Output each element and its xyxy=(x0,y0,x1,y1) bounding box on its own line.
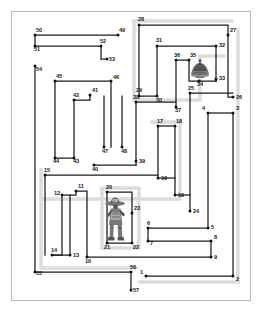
node-dot-9 xyxy=(210,256,213,259)
node-label-27: 27 xyxy=(230,27,236,33)
node-label-32: 32 xyxy=(219,42,225,48)
maze-node-46[interactable]: 46 xyxy=(110,74,120,83)
maze-node-53[interactable]: 53 xyxy=(106,56,116,62)
node-dot-15 xyxy=(44,174,47,177)
node-label-30: 30 xyxy=(156,97,162,103)
maze-node-56[interactable]: 56 xyxy=(130,264,137,274)
halo-bottom-left xyxy=(41,170,136,268)
maze-node-37[interactable]: 37 xyxy=(175,106,182,113)
node-label-47: 47 xyxy=(102,148,108,154)
node-dot-2 xyxy=(232,275,235,278)
node-label-21: 21 xyxy=(104,244,110,250)
node-dot-16 xyxy=(157,177,160,180)
node-label-52: 52 xyxy=(100,38,106,44)
node-dot-20 xyxy=(106,191,109,194)
path-55-56 xyxy=(35,272,131,290)
maze-node-51[interactable]: 51 xyxy=(34,45,41,52)
node-label-36: 36 xyxy=(174,52,180,58)
node-dot-56 xyxy=(130,271,133,274)
node-label-38: 38 xyxy=(133,94,139,100)
node-dot-11 xyxy=(75,190,78,193)
node-dot-41 xyxy=(89,94,92,97)
path-47-48 xyxy=(104,96,122,147)
node-label-40: 40 xyxy=(92,166,98,172)
node-dot-52 xyxy=(100,45,103,48)
node-label-13: 13 xyxy=(73,252,79,258)
node-label-46: 46 xyxy=(113,74,119,80)
path-11-12 xyxy=(62,191,76,195)
node-dot-25 xyxy=(189,92,192,95)
maze-node-52[interactable]: 52 xyxy=(100,38,107,48)
maze-diagram-root: 1234567891011121314151617181920212223242… xyxy=(0,0,261,311)
maze-node-7[interactable]: 7 xyxy=(147,240,154,246)
node-label-10: 10 xyxy=(85,258,91,264)
maze-node-41[interactable]: 41 xyxy=(89,87,99,97)
maze-node-49[interactable]: 49 xyxy=(117,27,126,37)
maze-node-55[interactable]: 55 xyxy=(34,270,43,276)
node-label-31: 31 xyxy=(156,37,162,43)
node-dot-36 xyxy=(175,59,178,62)
maze-node-12[interactable]: 12 xyxy=(54,190,64,197)
node-dot-33 xyxy=(215,78,218,81)
node-label-48: 48 xyxy=(121,148,127,154)
node-dot-32 xyxy=(215,45,218,48)
node-dot-49 xyxy=(117,34,120,37)
node-label-3: 3 xyxy=(236,105,239,111)
node-label-28: 28 xyxy=(138,16,144,22)
node-label-11: 11 xyxy=(78,183,84,189)
node-label-56: 56 xyxy=(130,264,136,270)
node-label-51: 51 xyxy=(34,46,40,52)
path-28-27 xyxy=(139,25,228,35)
maze-node-48[interactable]: 48 xyxy=(121,146,128,154)
maze-node-26[interactable]: 26 xyxy=(232,94,243,100)
node-label-37: 37 xyxy=(175,107,181,113)
node-dot-27 xyxy=(227,34,230,37)
node-dot-42 xyxy=(73,99,76,102)
maze-node-34[interactable]: 34 xyxy=(197,80,204,87)
node-dot-50 xyxy=(34,34,37,37)
path-10-11 xyxy=(76,191,87,257)
node-label-42: 42 xyxy=(73,92,79,98)
node-label-6: 6 xyxy=(147,220,150,226)
node-dot-39 xyxy=(135,160,138,163)
maze-node-35[interactable]: 35 xyxy=(188,52,197,62)
maze-node-32[interactable]: 32 xyxy=(215,42,226,48)
node-label-17: 17 xyxy=(157,118,163,124)
node-label-57: 57 xyxy=(133,287,139,293)
maze-node-43[interactable]: 43 xyxy=(73,157,80,164)
node-dot-38 xyxy=(135,101,138,104)
node-label-16: 16 xyxy=(161,175,167,181)
node-dot-45 xyxy=(54,80,57,83)
node-label-23: 23 xyxy=(134,205,140,211)
maze-node-4[interactable]: 4 xyxy=(202,105,210,115)
maze-node-8[interactable]: 8 xyxy=(210,234,218,243)
node-label-34: 34 xyxy=(197,81,204,87)
bell-lamp-glyph xyxy=(191,59,209,78)
maze-node-30[interactable]: 30 xyxy=(156,95,163,103)
node-dot-28 xyxy=(138,24,141,27)
node-label-12: 12 xyxy=(54,190,60,196)
path-8-7 xyxy=(148,228,211,241)
node-label-5: 5 xyxy=(211,224,214,230)
node-dot-35 xyxy=(188,59,191,62)
node-label-18: 18 xyxy=(176,118,182,124)
node-dot-26 xyxy=(232,96,235,99)
node-label-2: 2 xyxy=(236,276,239,282)
node-label-41: 41 xyxy=(92,87,98,93)
figure-glyph xyxy=(105,198,125,241)
path-27-26 xyxy=(228,35,233,97)
maze-node-47[interactable]: 47 xyxy=(102,146,108,154)
node-dot-5 xyxy=(207,227,210,230)
node-label-29: 29 xyxy=(136,87,142,93)
node-dot-17 xyxy=(157,125,160,128)
node-label-43: 43 xyxy=(73,158,79,164)
node-label-8: 8 xyxy=(214,234,217,240)
maze-node-44[interactable]: 44 xyxy=(53,157,60,164)
node-dot-46 xyxy=(110,80,113,83)
path-45-46 xyxy=(55,81,111,147)
node-label-45: 45 xyxy=(56,73,62,79)
maze-node-1[interactable]: 1 xyxy=(140,269,148,278)
node-dot-19 xyxy=(174,194,177,197)
node-label-7: 7 xyxy=(150,240,153,246)
node-label-50: 50 xyxy=(36,27,42,33)
